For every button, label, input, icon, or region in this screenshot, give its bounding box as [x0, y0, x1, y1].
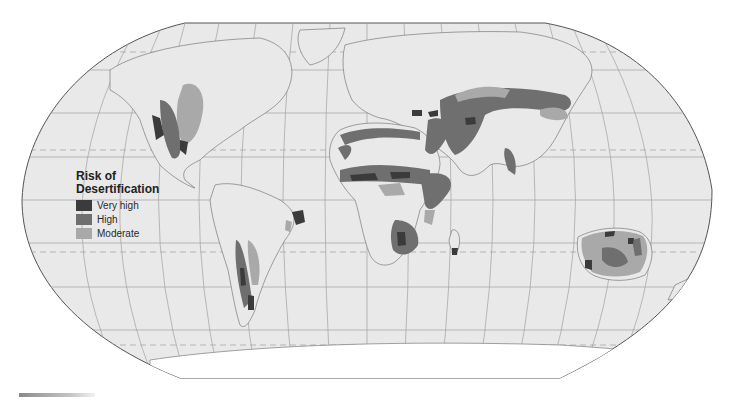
swatch-moderate	[76, 228, 92, 239]
legend-title-line2: Desertification	[76, 183, 159, 196]
legend: Risk of Desertification Very high High M…	[76, 170, 159, 240]
legend-label-high: High	[97, 214, 118, 225]
swatch-high	[76, 214, 92, 225]
legend-item-high: High	[76, 212, 159, 226]
legend-item-moderate: Moderate	[76, 226, 159, 240]
decorative-gradient-bar	[19, 393, 95, 397]
legend-label-moderate: Moderate	[97, 228, 139, 239]
swatch-very-high	[76, 200, 92, 211]
legend-label-very-high: Very high	[97, 200, 139, 211]
legend-item-very-high: Very high	[76, 198, 159, 212]
